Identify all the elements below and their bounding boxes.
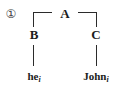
terminal-word-he: he	[27, 70, 38, 82]
branch-line-c-to-terminal	[96, 45, 97, 66]
terminal-node-he: hei	[14, 70, 54, 86]
branch-line-right-descender	[96, 12, 97, 27]
branch-line-root-to-left	[33, 12, 52, 13]
branch-line-b-to-terminal	[33, 45, 34, 66]
branch-line-root-to-right	[78, 12, 97, 13]
tree-node-b: B	[24, 28, 44, 41]
tree-node-c: C	[86, 28, 106, 41]
tree-node-root-a: A	[54, 7, 76, 20]
example-number-label: ①	[3, 6, 19, 22]
terminal-word-john: John	[83, 70, 106, 82]
coindex-subscript-he: i	[38, 75, 40, 84]
coindex-subscript-john: i	[107, 75, 109, 84]
syntax-tree-figure: ① A B C hei Johni	[0, 0, 124, 89]
branch-line-left-descender	[33, 12, 34, 27]
terminal-node-john: Johni	[73, 70, 119, 86]
